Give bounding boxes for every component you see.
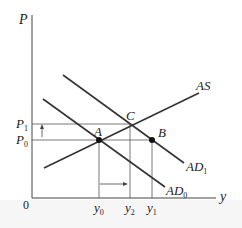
as-label: AS <box>196 79 210 92</box>
y0-label: y0 <box>94 201 104 214</box>
p1-label: P1 <box>16 117 28 130</box>
x-axis-label: y <box>220 190 226 204</box>
ad1-label: AD1 <box>186 160 207 173</box>
origin-label: 0 <box>23 199 29 211</box>
ad0-label: AD0 <box>166 184 187 197</box>
diagram-canvas <box>0 0 242 228</box>
price-up-arrowhead <box>40 124 44 129</box>
point-b <box>149 137 155 143</box>
output-right-arrowhead <box>123 182 128 186</box>
y-axis-label: P <box>19 13 28 27</box>
ad0-curve <box>43 99 165 187</box>
ad-as-diagram: P y 0 AS AD1 AD0 A B C P1 P0 y0 y2 y1 <box>0 0 242 228</box>
y1-label: y1 <box>147 201 157 214</box>
point-a-label: A <box>94 125 102 138</box>
point-c-label: C <box>126 109 135 122</box>
point-b-label: B <box>158 126 166 139</box>
p0-label: P0 <box>16 133 28 146</box>
y2-label: y2 <box>125 201 135 214</box>
